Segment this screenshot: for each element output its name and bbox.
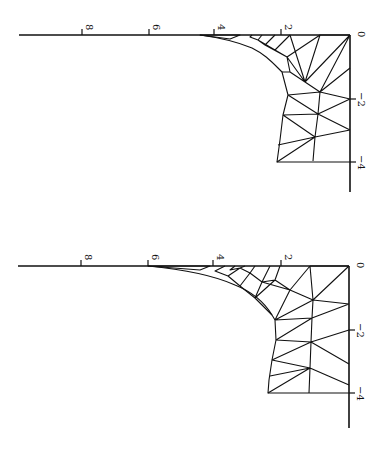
bottom-xlabel-6: 6 — [150, 254, 161, 260]
top-ylabel-m4: −4 — [356, 155, 367, 170]
top-xlabel-8: 8 — [84, 24, 95, 30]
top-mesh-boundary — [200, 35, 350, 162]
bottom-xlabel-4: 4 — [215, 254, 226, 260]
bottom-ylabel-m4: −4 — [355, 386, 366, 401]
bottom-xlabel-0: 0 — [355, 262, 366, 268]
top-plot: 8 6 4 2 0 −2 −4 — [19, 24, 367, 192]
top-xlabel-0: 0 — [356, 31, 367, 37]
top-mesh-interior — [250, 35, 350, 162]
top-ylabel-m2: −2 — [356, 92, 367, 107]
top-xlabel-4: 4 — [216, 24, 227, 30]
bottom-ylabel-m2: −2 — [355, 323, 366, 338]
bottom-mesh-boundary — [148, 266, 349, 393]
bottom-xlabel-8: 8 — [83, 254, 94, 260]
figure: 8 6 4 2 0 −2 −4 8 6 4 2 0 −2 −4 — [0, 0, 390, 452]
bottom-plot: 8 6 4 2 0 −2 −4 — [18, 254, 366, 428]
top-xlabel-2: 2 — [283, 24, 294, 30]
top-xlabel-6: 6 — [151, 24, 162, 30]
bottom-xlabel-2: 2 — [283, 254, 294, 260]
